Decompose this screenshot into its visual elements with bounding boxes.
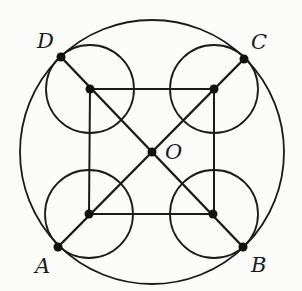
square-vertex-top-right xyxy=(210,85,219,94)
point-A xyxy=(54,243,63,252)
label-D: D xyxy=(36,29,54,53)
square-vertex-bottom-right xyxy=(209,210,218,219)
label-O: O xyxy=(165,140,182,164)
label-A: A xyxy=(33,254,50,278)
point-D xyxy=(57,53,66,62)
square-vertex-bottom-left xyxy=(85,210,94,219)
geometry-diagram: D C A B O xyxy=(0,0,302,291)
square-vertex-top-left xyxy=(86,85,95,94)
point-O xyxy=(148,148,157,157)
label-B: B xyxy=(250,253,266,277)
label-C: C xyxy=(251,30,267,54)
point-B xyxy=(239,243,248,252)
point-C xyxy=(240,55,249,64)
